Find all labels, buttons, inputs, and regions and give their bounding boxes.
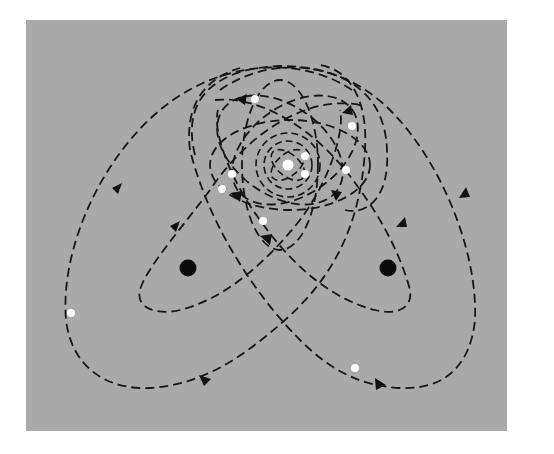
star: [348, 122, 356, 130]
right-mass: [380, 260, 397, 277]
star: [301, 170, 309, 178]
orbit-diagram: [0, 0, 554, 454]
star: [218, 185, 226, 193]
star: [251, 95, 259, 103]
star: [351, 364, 359, 372]
central-star: [283, 160, 294, 171]
left-mass: [180, 260, 197, 277]
star: [228, 170, 236, 178]
star: [259, 217, 267, 225]
star: [342, 166, 350, 174]
diagram-panel: [26, 20, 507, 431]
star: [301, 152, 309, 160]
star: [67, 309, 75, 317]
